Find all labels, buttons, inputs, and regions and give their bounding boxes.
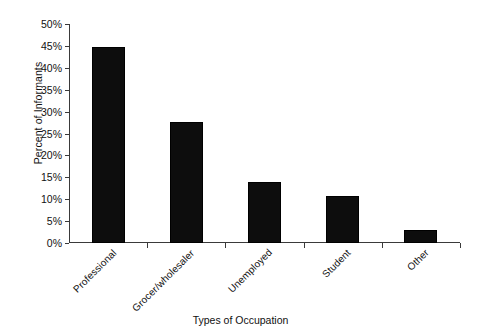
bar-chart: Percent of Informants 0%5%10%15%20%25%30… — [0, 0, 481, 336]
x-axis-category-label: Professional — [71, 247, 119, 295]
y-axis-tick-label: 50% — [41, 18, 62, 30]
y-axis-tick — [65, 68, 69, 69]
y-axis-tick-label: 10% — [41, 193, 62, 205]
y-axis-tick-label: 45% — [41, 40, 62, 52]
y-axis-tick — [65, 177, 69, 178]
x-axis-category-label: Other — [405, 247, 431, 273]
y-axis-tick — [65, 112, 69, 113]
y-axis-line — [69, 24, 70, 243]
x-axis-category-label: Student — [320, 247, 353, 280]
x-axis-category-label: Unemployed — [226, 247, 274, 295]
y-axis-tick — [65, 155, 69, 156]
plot-area: 0%5%10%15%20%25%30%35%40%45%50% — [69, 24, 460, 243]
x-axis-tick — [225, 243, 226, 248]
bar — [248, 182, 281, 243]
bar — [170, 122, 203, 243]
bar — [92, 47, 125, 243]
y-axis-tick-label: 25% — [41, 128, 62, 140]
y-axis-tick-label: 20% — [41, 149, 62, 161]
y-axis-tick — [65, 134, 69, 135]
y-axis-tick-label: 0% — [47, 237, 62, 249]
x-axis-tick — [382, 243, 383, 248]
bar — [404, 230, 437, 243]
y-axis-tick-label: 5% — [47, 215, 62, 227]
y-axis-tick-label: 15% — [41, 171, 62, 183]
y-axis-tick — [65, 24, 69, 25]
y-axis-tick — [65, 90, 69, 91]
x-axis-tick — [460, 243, 461, 248]
y-axis-tick-label: 35% — [41, 84, 62, 96]
y-axis-tick-label: 30% — [41, 106, 62, 118]
y-axis-tick-label: 40% — [41, 62, 62, 74]
x-axis-category-label: Grocer/wholesaler — [130, 247, 196, 313]
y-axis-tick — [65, 46, 69, 47]
y-axis-tick — [65, 199, 69, 200]
bar — [326, 196, 359, 243]
y-axis-tick — [65, 221, 69, 222]
x-axis-tick — [147, 243, 148, 248]
x-axis-title: Types of Occupation — [0, 314, 481, 326]
x-axis-tick — [304, 243, 305, 248]
y-axis-tick — [65, 243, 69, 244]
